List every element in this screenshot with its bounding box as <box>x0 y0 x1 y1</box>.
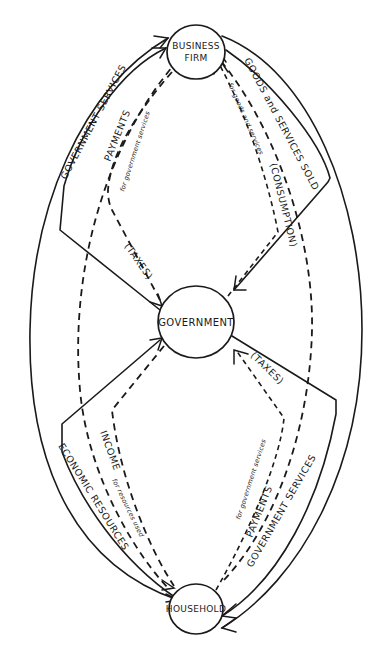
arrow-into-household-4 <box>222 618 236 632</box>
household-label: HOUSEHOLD <box>166 604 226 614</box>
label-firm-taxes: (TAXES) <box>122 241 155 281</box>
business-firm-node <box>167 25 225 79</box>
business-firm-label-line1: BUSINESS <box>172 41 219 51</box>
arrow-into-gov-4 <box>234 350 248 364</box>
business-firm-label-line2: FIRM <box>184 53 207 63</box>
label-household-taxes: (TAXES) <box>249 350 287 387</box>
circular-flow-diagram: BUSINESS FIRM GOVERNMENT HOUSEHOLD GOVER… <box>0 0 382 646</box>
government-label: GOVERNMENT <box>158 317 234 328</box>
